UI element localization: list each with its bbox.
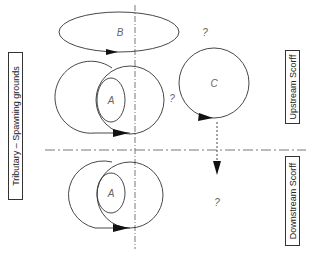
arrow-head-icon	[113, 129, 129, 137]
downstream-label: Downstream Scorff	[288, 163, 298, 239]
region-label-c: C	[210, 78, 218, 89]
question-mark-1: ?	[202, 27, 208, 38]
arrow-head-icon	[106, 49, 118, 55]
downstream-label-box: Downstream Scorff	[285, 156, 300, 246]
downstream-arrow	[213, 122, 221, 175]
diagram-canvas: B A A C ? ? ?	[0, 0, 313, 253]
tributary-label: Tributary – Spawning grounds	[11, 66, 21, 186]
question-mark-2: ?	[169, 93, 175, 104]
region-label-a-lower: A	[107, 188, 115, 199]
region-label-a-upper: A	[107, 95, 115, 106]
question-mark-3: ?	[214, 197, 220, 208]
loop-c: C	[179, 48, 249, 121]
loop-b: B	[59, 12, 179, 55]
tributary-label-box: Tributary – Spawning grounds	[8, 52, 23, 200]
upstream-label: Upstream Scorff	[288, 55, 298, 120]
arrow-head-icon	[198, 113, 213, 121]
region-label-b: B	[117, 27, 124, 38]
loop-a-lower: A	[68, 161, 163, 232]
arrow-down-icon	[213, 161, 221, 175]
loop-a-upper: A	[55, 61, 164, 137]
upstream-label-box: Upstream Scorff	[285, 50, 300, 124]
arrow-head-icon	[113, 224, 129, 232]
